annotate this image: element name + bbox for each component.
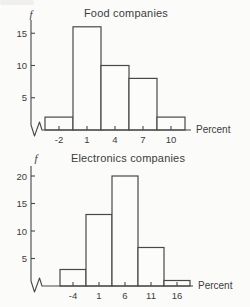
x-tick-label: -2 bbox=[55, 134, 63, 145]
histogram-bar bbox=[112, 176, 138, 286]
histogram-bar bbox=[73, 27, 101, 130]
x-tick-label: 6 bbox=[122, 290, 127, 301]
food-chart-title: Food companies bbox=[84, 7, 168, 19]
electronics-y-axis-label: f bbox=[34, 152, 39, 164]
y-tick-label: 15 bbox=[16, 198, 27, 209]
food-y-axis-label: f bbox=[29, 8, 34, 20]
histograms-figure: f Food companies 51015-214710 Percent f … bbox=[0, 0, 250, 307]
y-tick-label: 5 bbox=[22, 253, 27, 264]
histograms-svg: f Food companies 51015-214710 Percent f … bbox=[0, 0, 250, 307]
electronics-histogram-plot: 5101520-4161116 bbox=[16, 166, 193, 301]
food-histogram-plot: 51015-214710 bbox=[16, 20, 191, 145]
electronics-chart-title: Electronics companies bbox=[71, 152, 186, 164]
histogram-bar bbox=[86, 215, 112, 287]
x-tick-label: -4 bbox=[69, 290, 77, 301]
x-tick-label: 1 bbox=[84, 134, 89, 145]
x-tick-label: 7 bbox=[140, 134, 145, 145]
x-tick-label: 11 bbox=[146, 290, 156, 301]
histogram-bar bbox=[138, 248, 164, 287]
x-tick-label: 4 bbox=[112, 134, 117, 145]
y-tick-label: 10 bbox=[16, 60, 27, 71]
electronics-x-axis-label: Percent bbox=[198, 280, 233, 291]
y-tick-label: 20 bbox=[16, 171, 27, 182]
y-tick-label: 10 bbox=[16, 226, 27, 237]
histogram-bar bbox=[101, 66, 129, 131]
x-tick-label: 1 bbox=[96, 290, 101, 301]
y-tick-label: 15 bbox=[16, 28, 27, 39]
histogram-bar bbox=[129, 78, 157, 130]
food-x-axis-label: Percent bbox=[196, 124, 231, 135]
x-tick-label: 10 bbox=[166, 134, 177, 145]
y-tick-label: 5 bbox=[22, 92, 27, 103]
x-tick-label: 16 bbox=[172, 290, 183, 301]
